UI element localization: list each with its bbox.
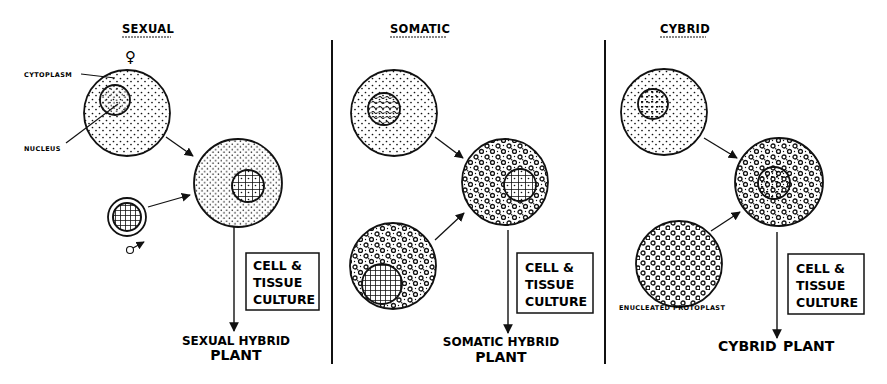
cybrid-cell bbox=[735, 138, 823, 226]
box-line: CULTURE bbox=[796, 295, 858, 310]
box-line: TISSUE bbox=[525, 277, 574, 292]
box-line: CULTURE bbox=[525, 294, 587, 309]
male-symbol-icon bbox=[127, 242, 145, 254]
arrow-a-to-hybrid bbox=[435, 137, 463, 158]
nucleus-label: NUCLEUS bbox=[24, 145, 61, 153]
result-plant-sexual: PLANT bbox=[210, 347, 262, 363]
nucleated-protoplast bbox=[621, 69, 707, 155]
enucleated-label: ENUCLEATED PROTOPLAST bbox=[619, 304, 725, 312]
result-label-sexual: SEXUAL HYBRID bbox=[182, 334, 290, 348]
box-line: CULTURE bbox=[253, 292, 315, 307]
protoplast-a bbox=[351, 70, 437, 156]
panel-title-sexual: SEXUAL bbox=[122, 22, 174, 36]
arrow-egg-to-zygote bbox=[166, 137, 193, 156]
box-line: TISSUE bbox=[253, 275, 302, 290]
result-plant-somatic: PLANT bbox=[475, 349, 527, 365]
box-line: CELL & bbox=[796, 261, 845, 276]
box-line: TISSUE bbox=[796, 278, 845, 293]
panel-somatic: SOMATIC CELL & TISSUE CULTURE SOMATIC HY… bbox=[350, 22, 593, 365]
box-line: CELL & bbox=[525, 260, 574, 275]
sexual-hybrid-cell bbox=[194, 139, 282, 227]
female-symbol-icon: ♀ bbox=[125, 48, 136, 66]
arrow-b-to-hybrid bbox=[435, 213, 464, 240]
panel-cybrid: CYBRID ENUCLEATED PROTOPLAST CELL & TISS… bbox=[619, 22, 864, 354]
arrow-nucleated-to-cybrid bbox=[704, 138, 737, 158]
result-plant-cybrid: PLANT bbox=[783, 338, 835, 354]
somatic-hybrid-cell bbox=[462, 139, 548, 225]
sperm-cell bbox=[108, 198, 146, 236]
panel-title-somatic: SOMATIC bbox=[390, 22, 450, 36]
result-label-somatic: SOMATIC HYBRID bbox=[443, 335, 559, 349]
egg-nucleus bbox=[100, 85, 130, 115]
arrow-sperm-to-zygote bbox=[148, 195, 190, 207]
egg-cell bbox=[84, 70, 170, 156]
enucleated-protoplast bbox=[636, 221, 722, 307]
panel-title-cybrid: CYBRID bbox=[660, 22, 710, 36]
cytoplasm-label: CYTOPLASM bbox=[24, 71, 72, 79]
result-label-cybrid: CYBRID bbox=[718, 338, 777, 354]
protoplast-b bbox=[350, 223, 436, 309]
fusion-diagram: SEXUAL ♀ CYTOPLASM NUCLEUS C bbox=[0, 0, 887, 384]
arrow-enucleated-to-cybrid bbox=[711, 212, 740, 231]
panel-sexual: SEXUAL ♀ CYTOPLASM NUCLEUS C bbox=[24, 22, 319, 363]
box-line: CELL & bbox=[253, 258, 302, 273]
